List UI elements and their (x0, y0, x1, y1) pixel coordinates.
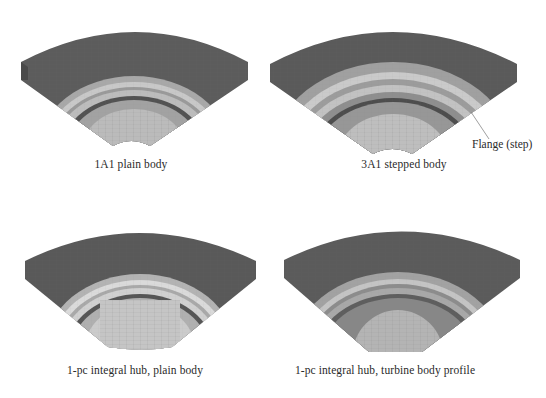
fan-1a1-plain-body (0, 0, 273, 224)
caption-integral-hub-plain-body: 1-pc integral hub, plain body (67, 364, 203, 376)
flange-callout-line (471, 112, 489, 139)
figure-canvas (0, 0, 546, 398)
fan-3a1-stepped-body (260, 0, 546, 254)
flange-step-callout-label: Flange (step) (472, 138, 532, 150)
caption-1a1-plain-body: 1A1 plain body (95, 158, 168, 170)
caption-integral-hub-turbine-body-profile: 1-pc integral hub, turbine body profile (295, 364, 475, 376)
caption-3a1-stepped-body: 3A1 stepped body (361, 158, 446, 170)
